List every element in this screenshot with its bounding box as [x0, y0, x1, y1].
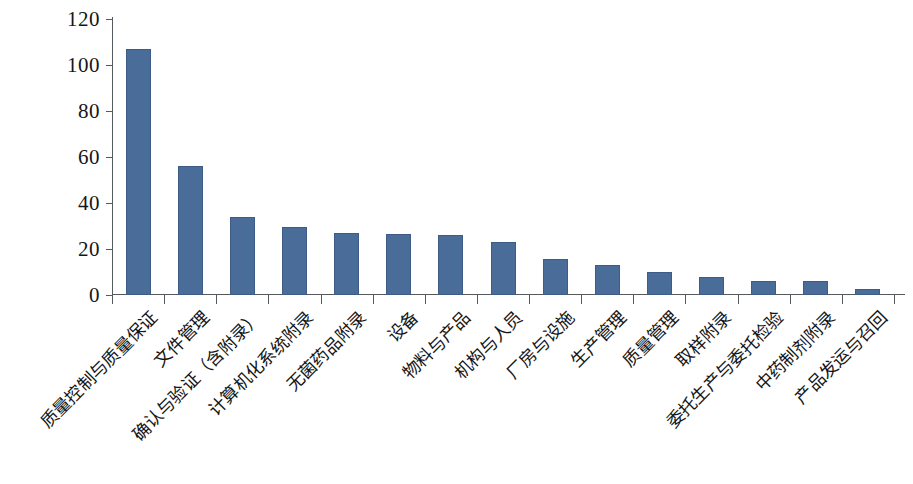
x-tick-mark	[633, 295, 634, 304]
x-axis-label: 产品发运与召回	[792, 308, 892, 408]
x-axis-line	[112, 294, 905, 295]
bar	[751, 281, 776, 295]
x-axis-label: 生产管理	[568, 308, 631, 371]
bar	[803, 281, 828, 295]
y-tick-mark	[106, 157, 113, 158]
x-axis-label: 设备	[384, 308, 422, 346]
y-tick-mark	[106, 203, 113, 204]
y-tick-mark	[106, 19, 113, 20]
x-tick-mark	[581, 295, 582, 304]
y-tick-label: 0	[36, 285, 100, 306]
x-tick-mark	[685, 295, 686, 304]
x-tick-mark	[164, 295, 165, 304]
x-tick-mark	[529, 295, 530, 304]
x-tick-mark	[112, 295, 113, 304]
y-tick-label: 120	[36, 9, 100, 30]
bar	[647, 272, 672, 295]
bar	[334, 233, 359, 295]
x-tick-mark	[373, 295, 374, 304]
x-tick-mark	[268, 295, 269, 304]
x-tick-mark	[321, 295, 322, 304]
x-axis-label: 质量管理	[620, 308, 683, 371]
y-tick-mark	[106, 111, 113, 112]
bar	[178, 166, 203, 295]
bar	[699, 277, 724, 295]
x-tick-mark	[738, 295, 739, 304]
bar	[230, 217, 255, 295]
x-tick-mark	[790, 295, 791, 304]
bar	[126, 49, 151, 295]
x-tick-mark	[216, 295, 217, 304]
bar	[543, 259, 568, 295]
y-tick-mark	[106, 65, 113, 66]
plot-area	[0, 0, 913, 484]
y-tick-label: 80	[36, 101, 100, 122]
bar-chart: 020406080100120 质量控制与质量保证文件管理确认与验证（含附录）计…	[0, 0, 913, 484]
y-tick-mark	[106, 249, 113, 250]
x-tick-mark	[477, 295, 478, 304]
y-tick-label: 20	[36, 239, 100, 260]
y-tick-label: 40	[36, 193, 100, 214]
bar	[438, 235, 463, 295]
x-axis-label: 质量控制与质量保证	[37, 308, 161, 432]
x-tick-mark	[425, 295, 426, 304]
bar	[491, 242, 516, 295]
y-tick-label: 60	[36, 147, 100, 168]
bar	[282, 227, 307, 295]
y-tick-label: 100	[36, 55, 100, 76]
bar	[595, 265, 620, 295]
x-tick-mark	[842, 295, 843, 304]
x-tick-mark	[894, 295, 895, 304]
bar	[386, 234, 411, 295]
